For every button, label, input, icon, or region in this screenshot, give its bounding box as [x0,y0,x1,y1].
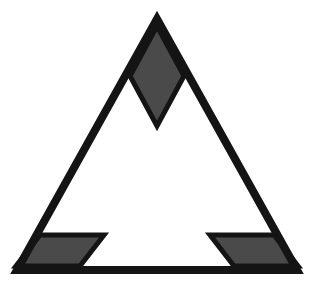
figure-canvas: Isosceles triangle with three marked int… [0,0,312,291]
triangle-figure: Isosceles triangle with three marked int… [0,0,312,291]
